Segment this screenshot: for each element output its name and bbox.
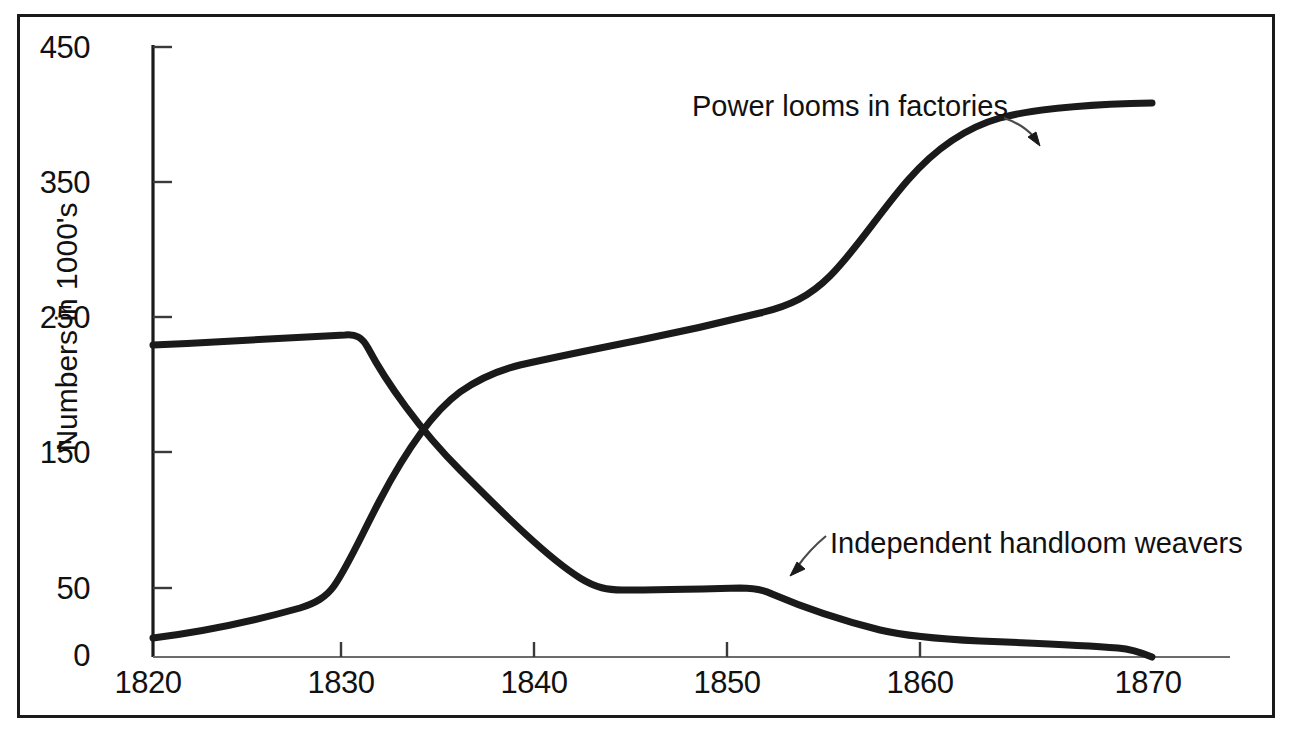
y-tick-label-450: 450 — [0, 30, 90, 66]
x-tick-label-1860: 1860 — [860, 665, 980, 701]
y-tick-label-250: 250 — [0, 300, 90, 336]
x-tick-label-1820: 1820 — [88, 665, 208, 701]
y-tick-label-150: 150 — [0, 435, 90, 471]
chart-plot-area — [0, 0, 1293, 734]
y-tick-label-0: 0 — [0, 638, 90, 674]
chart-figure: Numbers in 1000's 450 350 250 150 50 0 1… — [0, 0, 1293, 734]
annotation-label-power-looms: Power looms in factories — [692, 90, 1008, 123]
x-tick-label-1850: 1850 — [667, 665, 787, 701]
x-tick-label-1840: 1840 — [474, 665, 594, 701]
annotation-arrow-power-looms — [1004, 118, 1040, 146]
annotation-arrow-handloom-weavers — [790, 536, 826, 576]
y-tick-label-50: 50 — [0, 571, 90, 607]
x-tick-label-1830: 1830 — [281, 665, 401, 701]
y-axis-ticks — [153, 47, 172, 588]
x-axis-ticks — [341, 642, 920, 657]
annotation-label-handloom-weavers: Independent handloom weavers — [830, 527, 1243, 560]
y-tick-label-350: 350 — [0, 165, 90, 201]
x-tick-label-1870: 1870 — [1088, 665, 1208, 701]
